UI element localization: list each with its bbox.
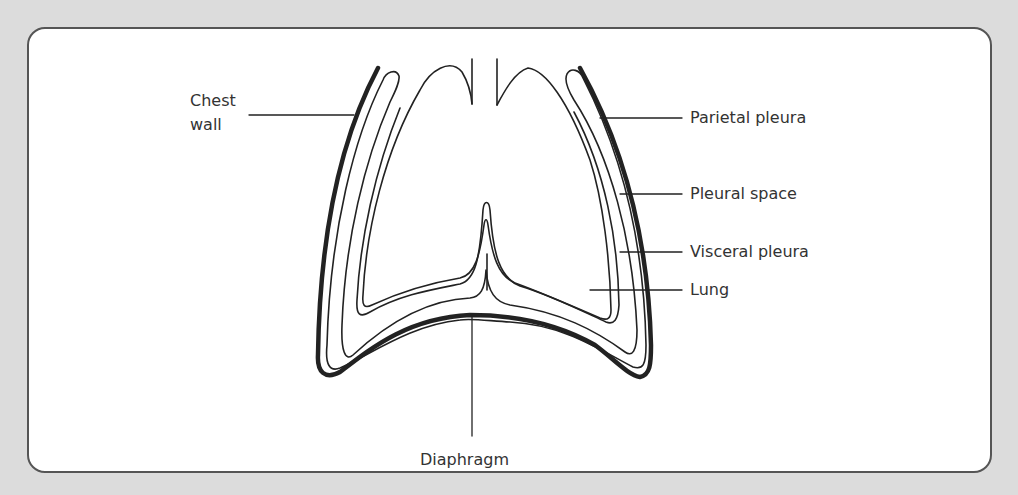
label-chest-wall-line2: wall [190, 114, 222, 136]
label-chest-wall-line1: Chest [190, 90, 236, 112]
label-pleural-space: Pleural space [690, 183, 797, 205]
label-parietal-pleura: Parietal pleura [690, 107, 806, 129]
pleura-diagram [0, 0, 1018, 495]
label-diaphragm: Diaphragm [420, 449, 509, 471]
label-visceral-pleura: Visceral pleura [690, 241, 809, 263]
label-lung: Lung [690, 279, 729, 301]
